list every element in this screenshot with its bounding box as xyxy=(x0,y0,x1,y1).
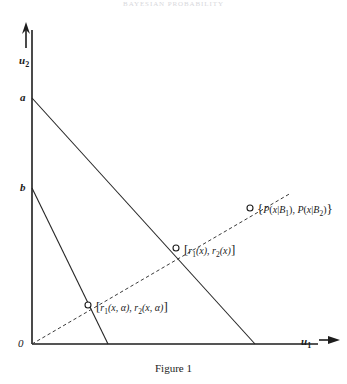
upper-point-annotation: {P(x|B1), P(x|B2)} xyxy=(257,202,333,218)
middle-point-arg2: (x) xyxy=(220,245,231,256)
y-axis-label-subscript: 2 xyxy=(25,60,29,69)
figure-plot-canvas xyxy=(0,0,347,384)
figure-container: BAYESIAN PROBABILITY u2 u1 0 a b {P(x|B1… xyxy=(0,0,347,384)
middle-point-annotation: [r1(x), r2(x)] xyxy=(184,243,235,259)
figure-caption: Figure 1 xyxy=(0,362,347,374)
middle-point-marker xyxy=(173,245,179,251)
y-axis-label: u2 xyxy=(19,55,29,69)
upper-point-marker xyxy=(247,205,253,211)
x-axis-label: u1 xyxy=(301,336,311,350)
origin-label: 0 xyxy=(18,338,24,349)
upper-point-close-brace: } xyxy=(327,201,333,216)
lower-point-close-bracket: ] xyxy=(163,299,167,314)
middle-point-arg1: (x) xyxy=(196,245,207,256)
lower-point-annotation: [r1(x, α), r2(x, α)] xyxy=(96,300,168,316)
lower-point-marker xyxy=(85,302,91,308)
y-intercept-a-label: a xyxy=(20,92,26,103)
lower-point-arg1: (x, α) xyxy=(108,302,129,313)
lower-point-arg2: (x, α) xyxy=(142,302,163,313)
y-intercept-b-label: b xyxy=(20,182,26,193)
middle-point-close-bracket: ] xyxy=(231,242,235,257)
x-axis-label-subscript: 1 xyxy=(307,341,311,350)
lower-constraint-line xyxy=(32,188,108,344)
